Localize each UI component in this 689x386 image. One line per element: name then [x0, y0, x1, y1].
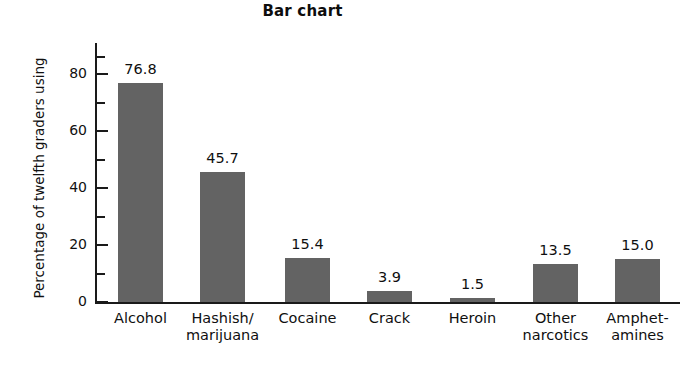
bar-value-label: 15.0 [603, 237, 672, 253]
x-axis-category-line: marijuana [182, 327, 264, 344]
plot-area: 76.845.715.43.91.513.515.0 [95, 43, 680, 304]
x-axis-category-label: Crack [349, 310, 431, 327]
x-axis-category-label: Hashish/marijuana [182, 310, 264, 344]
y-axis-tick-minor [97, 102, 105, 104]
x-axis-category-label: Cocaine [267, 310, 349, 327]
y-axis-tick-label: 40 [53, 179, 87, 195]
y-axis-tick-label: 0 [53, 293, 87, 309]
bar-chart-figure: Bar chart Percentage of twelfth graders … [0, 0, 689, 386]
bar-value-label: 76.8 [106, 61, 175, 77]
x-axis-category-line: narcotics [515, 327, 597, 344]
y-axis-tick-label: 60 [53, 122, 87, 138]
y-axis-tick-minor [97, 216, 105, 218]
bar-value-label: 1.5 [438, 276, 507, 292]
x-axis-category-line: Heroin [432, 310, 514, 327]
bar-value-label: 13.5 [521, 242, 590, 258]
y-axis-tick-label: 80 [53, 65, 87, 81]
y-axis-tick-major [97, 187, 108, 189]
bar [615, 259, 660, 302]
y-axis-tick-minor [97, 56, 105, 58]
y-axis-line [95, 43, 97, 304]
bar-value-label: 45.7 [188, 150, 257, 166]
bar [367, 291, 412, 302]
x-axis-category-line: amines [597, 327, 679, 344]
x-axis-category-line: Other [515, 310, 597, 327]
bar-value-label: 15.4 [273, 236, 342, 252]
bar [200, 172, 245, 302]
y-axis-tick-minor [97, 273, 105, 275]
y-axis-tick-label: 20 [53, 236, 87, 252]
y-axis-tick-major [97, 244, 108, 246]
bar [118, 83, 163, 302]
y-axis-label: Percentage of twelfth graders using [31, 33, 47, 323]
bar [533, 264, 578, 302]
x-axis-line [95, 302, 680, 304]
chart-title: Bar chart [0, 2, 605, 20]
x-axis-category-label: Othernarcotics [515, 310, 597, 344]
x-axis-category-line: Crack [349, 310, 431, 327]
x-axis-category-label: Amphet-amines [597, 310, 679, 344]
bar-value-label: 3.9 [355, 269, 424, 285]
x-axis-category-line: Cocaine [267, 310, 349, 327]
y-axis-tick-major [97, 130, 108, 132]
x-axis-category-label: Heroin [432, 310, 514, 327]
x-axis-category-line: Hashish/ [182, 310, 264, 327]
x-axis-category-line: Alcohol [100, 310, 182, 327]
bar [285, 258, 330, 302]
x-axis-category-label: Alcohol [100, 310, 182, 327]
y-axis-tick-major [97, 301, 108, 303]
y-axis-tick-minor [97, 159, 105, 161]
x-axis-category-line: Amphet- [597, 310, 679, 327]
bar [450, 298, 495, 302]
